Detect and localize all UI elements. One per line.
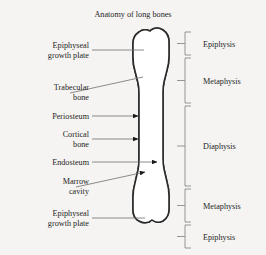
- label-epiphyseal-growth-plate-bottom-line1: Epiphyseal: [53, 209, 90, 218]
- label-marrow-cavity-line2: cavity: [69, 187, 90, 196]
- label-trabecular-bone-line1: Trabecular: [54, 83, 89, 92]
- label-endosteum: Endosteum: [52, 158, 89, 167]
- label-trabecular-bone-line2: bone: [73, 93, 89, 102]
- bracket-label-diaphysis: Diaphysis: [203, 142, 236, 151]
- bracket-label-epiphysis-proximal: Epiphysis: [203, 40, 235, 49]
- bracket-label-metaphysis-proximal: Metaphysis: [203, 77, 241, 86]
- label-periosteum: Periosteum: [52, 112, 89, 121]
- long-bone-anatomy-diagram: Anatomy of long bones: [0, 0, 266, 255]
- bracket-label-epiphysis-distal: Epiphysis: [203, 233, 235, 242]
- label-epiphyseal-growth-plate-top-line1: Epiphyseal: [53, 41, 90, 50]
- label-cortical-bone-line2: bone: [73, 140, 89, 149]
- label-epiphyseal-growth-plate-bottom-line2: growth plate: [48, 219, 90, 228]
- label-epiphyseal-growth-plate-top-line2: growth plate: [48, 51, 90, 60]
- label-marrow-cavity-line1: Marrow: [63, 177, 89, 186]
- bracket-label-metaphysis-distal: Metaphysis: [203, 202, 241, 211]
- page-title: Anatomy of long bones: [94, 10, 171, 19]
- label-cortical-bone-line1: Cortical: [63, 130, 90, 139]
